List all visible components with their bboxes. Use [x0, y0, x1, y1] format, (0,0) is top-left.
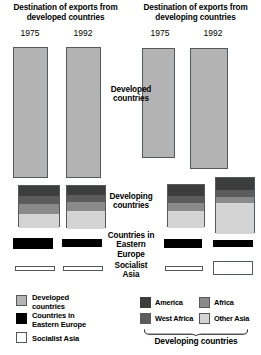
- legend-label-africa: Africa: [214, 299, 234, 308]
- row-label-line1: Developing: [109, 192, 152, 201]
- bar-left-1975-eastern-europe: [13, 238, 53, 249]
- legend-swatch-socialist-asia: [16, 332, 27, 343]
- panel-left-title: Destination of exports from developed co…: [0, 3, 131, 23]
- legend-swatch-america: [140, 297, 151, 308]
- row-label-line1: Developed: [111, 85, 152, 94]
- row-label-line2: Asia: [123, 270, 140, 279]
- row-label-line1: Countries in: [108, 231, 155, 240]
- bar-right-1992-eastern-europe: [213, 240, 253, 247]
- legend-label-line2: countries: [32, 302, 65, 311]
- brace-icon: [144, 329, 248, 336]
- bar-right-1975-developing: [167, 184, 205, 227]
- legend-label-developed-countries: Developed countries: [32, 294, 69, 311]
- bar-right-1975-socialist-asia: [165, 266, 203, 271]
- legend-right-group-label: Developing countries: [132, 336, 260, 346]
- legend-label-socialist-asia: Socialist Asia: [32, 335, 79, 344]
- row-label-line2: countries: [113, 94, 149, 103]
- legend-swatch-developed-countries: [16, 295, 27, 306]
- year-label-1975-right: 1975: [138, 28, 182, 38]
- bar-left-1975-socialist-asia: [15, 266, 55, 271]
- seg-africa: [168, 203, 204, 211]
- legend-swatch-west-africa: [140, 313, 151, 324]
- row-label-line1: Socialist: [115, 261, 148, 270]
- year-label-1992-left: 1992: [61, 28, 105, 38]
- legend-label-america: America: [155, 299, 183, 308]
- seg-other-asia: [19, 214, 59, 228]
- panel-left-title-line2: developed countries: [27, 13, 105, 22]
- year-label-1992-right: 1992: [191, 28, 235, 38]
- legend-label-line1: Socialist Asia: [32, 334, 79, 343]
- row-label-line2: countries: [113, 201, 149, 210]
- legend-swatch-other-asia: [199, 313, 210, 324]
- bar-right-1992-developed: [190, 48, 228, 169]
- seg-west-africa: [168, 196, 204, 203]
- bar-left-1992-developed: [66, 47, 101, 178]
- row-label-line2: Eastern: [116, 240, 145, 249]
- seg-west-africa: [216, 190, 254, 197]
- legend-label-line2: Eastern Europe: [32, 320, 86, 329]
- seg-america: [19, 186, 59, 196]
- seg-other-asia: [216, 203, 254, 234]
- legend-swatch-eastern-europe: [16, 313, 27, 324]
- bar-right-1975-eastern-europe: [164, 239, 202, 248]
- panel-right-title: Destination of exports from developing c…: [130, 3, 261, 23]
- row-label-socialist-asia: Socialist Asia: [96, 261, 166, 280]
- seg-other-asia: [67, 211, 105, 229]
- bar-left-1975-developing: [18, 185, 60, 227]
- legend-swatch-africa: [199, 297, 210, 308]
- legend-label-eastern-europe: Countries in Eastern Europe: [32, 312, 86, 329]
- row-label-developed-countries: Developed countries: [96, 85, 166, 104]
- panel-right-title-line2: developing countries: [155, 13, 235, 22]
- seg-america: [216, 178, 254, 190]
- seg-africa: [19, 204, 59, 214]
- panel-left-title-line1: Destination of exports from: [13, 3, 117, 12]
- seg-other-asia: [168, 211, 204, 228]
- bar-right-1992-developing: [215, 177, 255, 233]
- seg-america: [168, 185, 204, 196]
- year-label-1975-left: 1975: [8, 28, 52, 38]
- row-label-line3: Europe: [117, 250, 145, 259]
- panel-right-title-line1: Destination of exports from: [143, 3, 247, 12]
- bar-right-1992-socialist-asia: [213, 261, 253, 275]
- legend-label-other-asia: Other Asia: [214, 315, 249, 324]
- row-label-eastern-europe: Countries in Eastern Europe: [96, 231, 166, 259]
- bar-left-1975-developed: [13, 47, 48, 178]
- legend-label-west-africa: West Africa: [155, 315, 193, 324]
- seg-west-africa: [19, 196, 59, 204]
- row-label-developing-countries: Developing countries: [96, 192, 166, 211]
